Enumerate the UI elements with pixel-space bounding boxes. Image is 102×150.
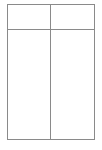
table-grid bbox=[8, 5, 94, 139]
table-header-cell-2[interactable] bbox=[51, 5, 94, 30]
table-frame bbox=[7, 4, 95, 140]
screenshot-root bbox=[0, 0, 102, 150]
table-body-cell-2[interactable] bbox=[51, 30, 94, 140]
table-body-cell-1[interactable] bbox=[8, 30, 51, 140]
table-header-cell-1[interactable] bbox=[8, 5, 51, 30]
